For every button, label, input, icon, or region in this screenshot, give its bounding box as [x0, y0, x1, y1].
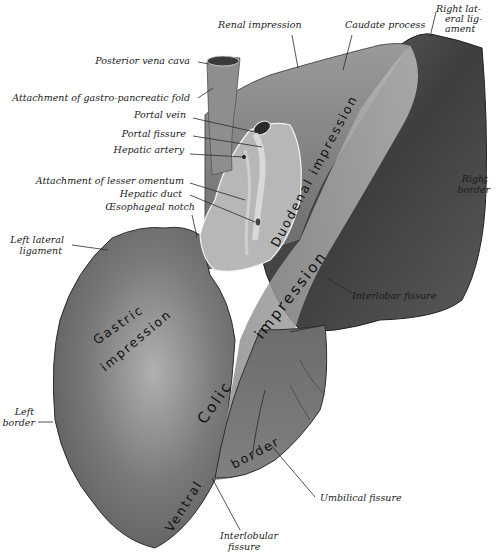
- label-left-lateral-ligament-1: Left lateral: [9, 234, 64, 245]
- label-left-border-1: Left: [14, 406, 34, 417]
- hepatic-duct: [255, 218, 261, 226]
- label-interlobular-fissure-2: fissure: [227, 541, 261, 552]
- label-interlobar-fissure: Interlobar fissure: [351, 290, 437, 301]
- label-caudate-process: Caudate process: [345, 19, 425, 30]
- label-portal-fissure: Portal fissure: [121, 128, 187, 139]
- label-left-lateral-ligament-2: ligament: [20, 245, 63, 256]
- label-right-border-2: border: [457, 184, 491, 195]
- label-renal-impression: Renal impression: [217, 19, 302, 30]
- label-oesophageal-notch: Œsophageal notch: [105, 201, 195, 212]
- label-lesser-omentum: Attachment of lesser omentum: [35, 175, 184, 186]
- label-right-border-1: Right: [461, 173, 488, 184]
- label-posterior-vena-cava: Posterior vena cava: [94, 55, 190, 66]
- label-hepatic-duct: Hepatic duct: [119, 188, 182, 199]
- label-right-lateral-ligament-3: ament: [445, 23, 475, 34]
- liver-illustration: Renal impression Caudate process Right l…: [0, 0, 500, 558]
- label-interlobular-fissure-1: Interlobular: [219, 530, 280, 541]
- anatomy-figure: Renal impression Caudate process Right l…: [0, 0, 500, 558]
- label-left-border-2: border: [2, 417, 36, 428]
- label-portal-vein: Portal vein: [133, 109, 186, 120]
- label-hepatic-artery: Hepatic artery: [113, 144, 185, 155]
- label-umbilical-fissure: Umbilical fissure: [320, 492, 402, 503]
- label-gastro-pancreatic-fold: Attachment of gastro-pancreatic fold: [11, 92, 190, 103]
- left-lobe: [53, 227, 235, 548]
